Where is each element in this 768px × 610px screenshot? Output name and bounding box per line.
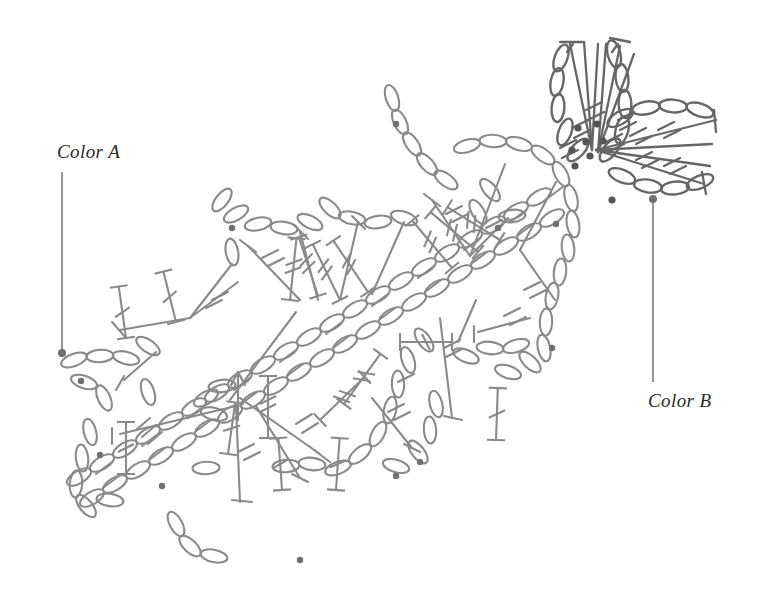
color-b-label: Color B — [648, 390, 712, 412]
color-a-endpoint-dot — [58, 349, 66, 357]
chart-canvas: Color A Color B — [0, 0, 768, 610]
upper-left-lattice — [209, 83, 582, 382]
lower-left-lobe — [59, 333, 228, 565]
color-a-label: Color A — [57, 141, 120, 163]
flower-petal-right — [596, 99, 716, 196]
color-b-endpoint-dot — [649, 195, 657, 203]
flower-motif — [548, 38, 716, 204]
upper-stitch-stems — [110, 200, 505, 427]
crochet-chart-diagram — [0, 0, 768, 610]
flower-petal-upper-left — [548, 42, 604, 165]
main-body-motif — [59, 83, 581, 565]
